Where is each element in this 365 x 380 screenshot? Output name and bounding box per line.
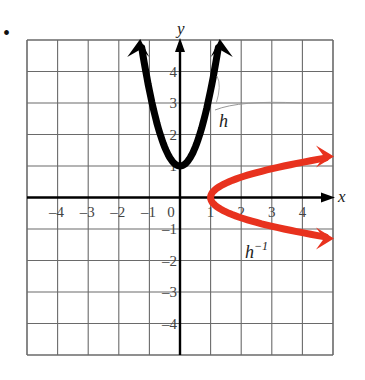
h-label: h bbox=[219, 111, 228, 131]
svg-text:–4: –4 bbox=[161, 316, 178, 332]
svg-text:–1: –1 bbox=[140, 204, 156, 220]
svg-text:4: 4 bbox=[299, 204, 307, 220]
x-axis-label: x bbox=[337, 187, 346, 206]
svg-text:–1: –1 bbox=[161, 221, 177, 237]
h-leader-line bbox=[216, 76, 219, 104]
y-axis-label: y bbox=[175, 19, 185, 38]
svg-text:3: 3 bbox=[268, 204, 276, 220]
h-inverse-label: h−1 bbox=[245, 239, 268, 262]
svg-text:2: 2 bbox=[170, 127, 178, 143]
graph: –4–3–2–1012344321–1–2–3–4 x y h h−1 bbox=[0, 0, 365, 380]
svg-text:–3: –3 bbox=[79, 204, 95, 220]
svg-text:0: 0 bbox=[167, 204, 175, 220]
svg-text:–4: –4 bbox=[48, 204, 65, 220]
svg-text:–2: –2 bbox=[161, 253, 177, 269]
svg-text:–2: –2 bbox=[109, 204, 125, 220]
axes bbox=[27, 38, 335, 355]
svg-text:–3: –3 bbox=[161, 284, 177, 300]
svg-text:3: 3 bbox=[170, 95, 178, 111]
svg-text:4: 4 bbox=[170, 64, 178, 80]
